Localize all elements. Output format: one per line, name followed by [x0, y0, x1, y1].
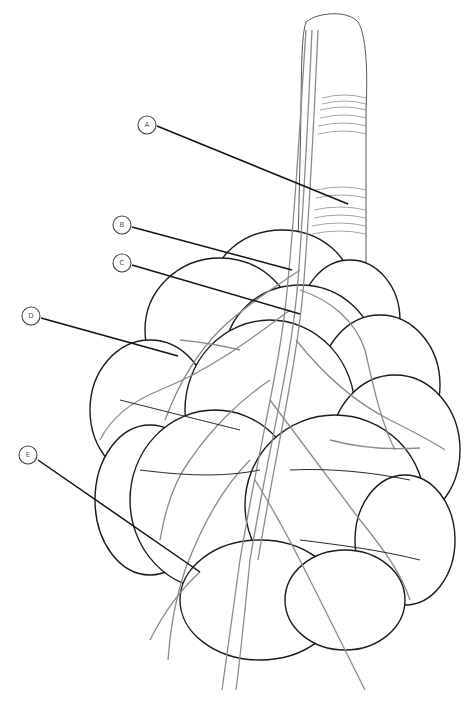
label-letter-c: C: [120, 259, 125, 267]
alveoli-diagram: A B C D E: [0, 0, 468, 707]
label-letter-e: E: [26, 451, 30, 459]
alveoli-cluster: [90, 230, 460, 660]
label-letter-a: A: [145, 121, 150, 129]
label-letter-d: D: [28, 312, 33, 320]
label-letter-b: B: [120, 221, 125, 229]
